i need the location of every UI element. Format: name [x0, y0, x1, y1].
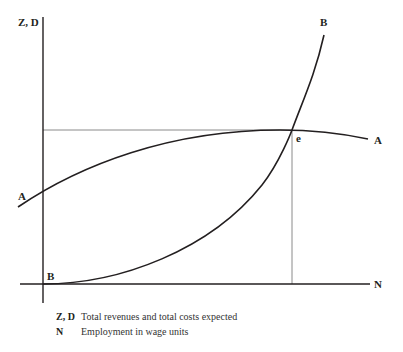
legend: Z, D Total revenues and total costs expe… — [56, 309, 237, 339]
x-axis-label: N — [374, 278, 382, 290]
curve-a-label-left: A — [18, 190, 26, 202]
curve-b — [43, 35, 324, 284]
curve-a-label-right: A — [374, 134, 382, 146]
curve-b-label-top: B — [320, 16, 328, 28]
y-axis-label: Z, D — [18, 16, 39, 28]
legend-row: N Employment in wage units — [56, 324, 237, 339]
intersection-label-e: e — [296, 132, 301, 144]
legend-text: Employment in wage units — [81, 324, 189, 339]
curve-a — [18, 130, 368, 207]
legend-text: Total revenues and total costs expected — [81, 309, 237, 324]
legend-key: Z, D — [56, 309, 81, 324]
legend-row: Z, D Total revenues and total costs expe… — [56, 309, 237, 324]
curve-b-label-bottom: B — [47, 270, 55, 282]
legend-key: N — [56, 324, 81, 339]
diagram-canvas: Z, D N A A B B e — [0, 0, 403, 352]
